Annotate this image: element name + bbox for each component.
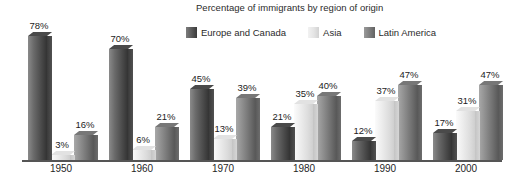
bar-group-1960: 70%6%21%1960	[103, 32, 181, 160]
bar-front-face	[109, 49, 128, 160]
bar-latin-america-1990[interactable]: 47%	[398, 85, 417, 160]
bar-front-face	[51, 155, 70, 160]
bar-value-label-europe-canada-1990: 12%	[348, 125, 378, 136]
bar-value-label-asia-1980: 35%	[290, 88, 320, 99]
bar-side-face	[174, 127, 179, 160]
bar-group-1950: 78%3%16%1950	[22, 32, 100, 160]
bar-value-label-asia-1990: 37%	[371, 85, 401, 96]
bar-value-label-europe-canada-1960: 70%	[105, 33, 135, 44]
bar-asia-1950[interactable]: 3%	[51, 155, 70, 160]
x-axis-tick-label-1950: 1950	[22, 163, 100, 174]
bar-side-face	[394, 101, 399, 160]
bar-value-label-europe-canada-1980: 21%	[267, 111, 297, 122]
bar-front-face	[317, 96, 336, 160]
bar-value-label-latin-america-1950: 16%	[70, 119, 100, 130]
bar-value-label-europe-canada-2000: 17%	[429, 117, 459, 128]
bar-side-face	[371, 141, 376, 160]
bar-value-label-latin-america-1960: 21%	[151, 111, 181, 122]
bar-side-face	[209, 89, 214, 160]
x-axis-tick-label-2000: 2000	[427, 163, 505, 174]
plot-area: 78%3%16%195070%6%21%196045%13%39%197021%…	[0, 0, 515, 186]
bar-front-face	[271, 127, 290, 160]
bar-front-face	[132, 150, 151, 160]
bar-side-face	[498, 85, 503, 160]
bar-side-face	[47, 36, 52, 160]
bar-value-label-europe-canada-1950: 78%	[24, 20, 54, 31]
bar-value-label-asia-2000: 31%	[452, 95, 482, 106]
bar-side-face	[128, 49, 133, 160]
bar-value-label-latin-america-2000: 47%	[475, 69, 505, 80]
bar-front-face	[190, 89, 209, 160]
bar-value-label-latin-america-1970: 39%	[232, 82, 262, 93]
bar-europe-canada-1990[interactable]: 12%	[352, 141, 371, 160]
bar-side-face	[290, 127, 295, 160]
x-axis-tick-label-1990: 1990	[346, 163, 424, 174]
x-axis-tick-label-1980: 1980	[265, 163, 343, 174]
bar-group-bars: 12%37%47%	[346, 32, 424, 160]
bar-group-bars: 70%6%21%	[103, 32, 181, 160]
x-axis-tick-label-1960: 1960	[103, 163, 181, 174]
bar-side-face	[313, 104, 318, 160]
bar-group-bars: 17%31%47%	[427, 32, 505, 160]
bar-europe-canada-1950[interactable]: 78%	[28, 36, 47, 160]
bar-side-face	[452, 133, 457, 160]
bar-side-face	[255, 98, 260, 160]
bar-europe-canada-2000[interactable]: 17%	[433, 133, 452, 160]
bar-europe-canada-1980[interactable]: 21%	[271, 127, 290, 160]
bar-front-face	[398, 85, 417, 160]
bar-group-1970: 45%13%39%1970	[184, 32, 262, 160]
bar-side-face	[70, 155, 75, 160]
bar-europe-canada-1960[interactable]: 70%	[109, 49, 128, 160]
bar-side-face	[93, 135, 98, 160]
bar-europe-canada-1970[interactable]: 45%	[190, 89, 209, 160]
bar-front-face	[28, 36, 47, 160]
bar-group-1980: 21%35%40%1980	[265, 32, 343, 160]
bar-side-face	[151, 150, 156, 160]
bar-front-face	[213, 139, 232, 160]
bar-group-2000: 17%31%47%2000	[427, 32, 505, 160]
x-axis-baseline	[22, 160, 502, 162]
x-axis-tick-label-1970: 1970	[184, 163, 262, 174]
bar-group-1990: 12%37%47%1990	[346, 32, 424, 160]
bar-front-face	[433, 133, 452, 160]
bar-value-label-europe-canada-1970: 45%	[186, 73, 216, 84]
bar-side-face	[232, 139, 237, 160]
bar-side-face	[475, 111, 480, 160]
bar-group-bars: 21%35%40%	[265, 32, 343, 160]
immigration-bar-chart: Percentage of immigrants by region of or…	[0, 0, 515, 186]
bar-front-face	[352, 141, 371, 160]
bar-latin-america-1980[interactable]: 40%	[317, 96, 336, 160]
bar-group-bars: 78%3%16%	[22, 32, 100, 160]
bar-side-face	[336, 96, 341, 160]
bar-asia-1960[interactable]: 6%	[132, 150, 151, 160]
bar-group-bars: 45%13%39%	[184, 32, 262, 160]
bar-value-label-latin-america-1990: 47%	[394, 69, 424, 80]
bar-side-face	[417, 85, 422, 160]
bar-asia-1970[interactable]: 13%	[213, 139, 232, 160]
